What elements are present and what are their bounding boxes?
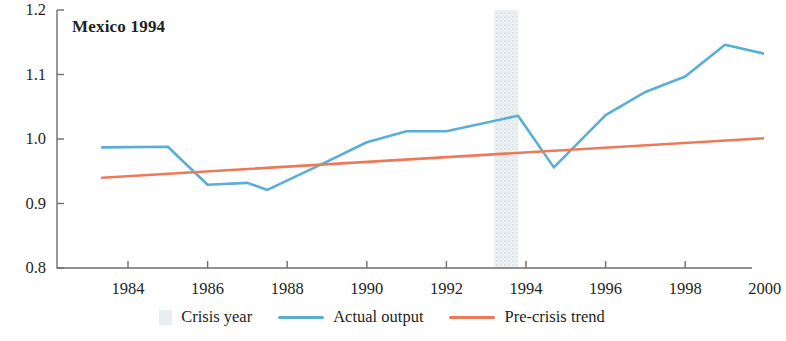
- legend-item-pre-crisis-trend: Pre-crisis trend: [449, 309, 604, 326]
- x-axis-tick-label: 1992: [411, 281, 481, 298]
- y-axis-tick-label: 1.1: [2, 67, 46, 84]
- series-line-pre-crisis-trend: [102, 137, 764, 178]
- x-axis-tick-label: 1988: [252, 281, 322, 298]
- chart-legend: Crisis yearActual outputPre-crisis trend: [0, 309, 764, 326]
- legend-swatch-line: [278, 316, 324, 319]
- legend-swatch-line: [449, 316, 495, 319]
- y-axis-tick-label: 0.8: [2, 260, 46, 277]
- legend-item-actual-output: Actual output: [278, 309, 423, 326]
- x-axis-tick-label: 1986: [173, 281, 243, 298]
- legend-swatch-crisis-band: [159, 310, 172, 325]
- x-axis-tick-label: 2000: [730, 281, 786, 298]
- panel-title: Mexico 1994: [72, 17, 165, 37]
- x-axis-tick-label: 1994: [491, 281, 561, 298]
- x-axis-tick-label: 1984: [93, 281, 163, 298]
- y-axis-tick-label: 0.9: [2, 196, 46, 213]
- legend-label: Actual output: [333, 309, 423, 326]
- x-axis-tick-label: 1990: [332, 281, 402, 298]
- x-axis-tick-label: 1998: [650, 281, 720, 298]
- legend-label: Pre-crisis trend: [504, 309, 604, 326]
- legend-item-crisis-year: Crisis year: [159, 309, 252, 326]
- crisis-year-band: [494, 10, 518, 268]
- series-line-actual-output: [102, 45, 764, 190]
- x-axis-tick-label: 1996: [571, 281, 641, 298]
- axis-spines: [57, 10, 752, 268]
- y-axis-tick-label: 1.2: [2, 2, 46, 19]
- legend-label: Crisis year: [181, 309, 252, 326]
- y-axis-tick-label: 1.0: [2, 131, 46, 148]
